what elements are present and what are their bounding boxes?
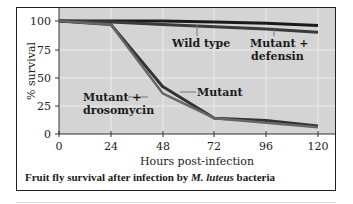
x-tick-0: 0 xyxy=(56,140,63,153)
label-mutant-defensin-2: defensin xyxy=(251,50,304,63)
y-tick-100: 100 xyxy=(30,15,51,28)
label-mutant-drosomycin-2: drosomycin xyxy=(83,104,154,117)
label-mutant-defensin-1: Mutant + xyxy=(250,37,309,50)
y-tick-0: 0 xyxy=(44,128,51,141)
figure-caption: Fruit fly survival after infection by M.… xyxy=(25,171,275,183)
y-tick-75: 75 xyxy=(37,44,51,57)
y-axis-label: % survival xyxy=(25,42,38,100)
bottom-rule xyxy=(16,202,336,203)
x-axis-label: Hours post-infection xyxy=(140,155,254,168)
label-wild-type: Wild type xyxy=(171,37,230,50)
label-mutant: Mutant xyxy=(197,86,243,99)
x-tick-120: 120 xyxy=(308,140,329,153)
caption-species: M. luteus xyxy=(191,171,234,183)
x-tick-24: 24 xyxy=(104,140,118,153)
caption-prefix: Fruit fly survival after infection by xyxy=(25,171,188,183)
label-mutant-drosomycin-1: Mutant + xyxy=(83,91,142,104)
y-tick-50: 50 xyxy=(37,72,51,85)
x-tick-labels: 0 24 48 72 96 120 xyxy=(56,140,329,153)
y-tick-25: 25 xyxy=(37,100,51,113)
x-tick-72: 72 xyxy=(207,140,221,153)
caption-suffix: bacteria xyxy=(237,171,275,183)
x-tick-96: 96 xyxy=(259,140,273,153)
x-tick-48: 48 xyxy=(156,140,170,153)
